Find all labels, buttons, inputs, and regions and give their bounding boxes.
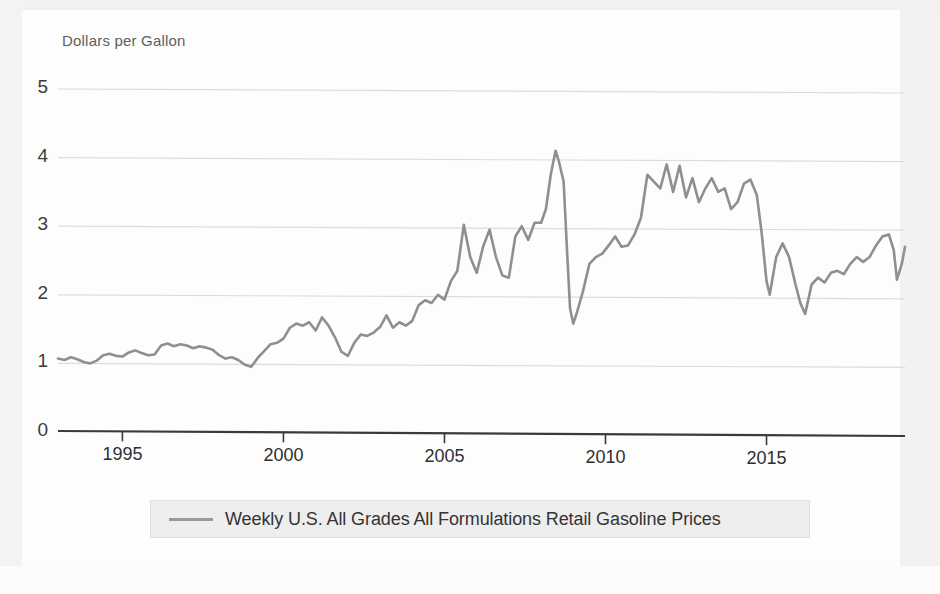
x-axis-tick-label: 1995 xyxy=(92,444,152,465)
data-series-line xyxy=(58,151,905,367)
x-axis-tick-label: 2005 xyxy=(414,446,474,467)
legend-line-swatch xyxy=(169,518,213,521)
gridline xyxy=(58,89,905,93)
chart-page: Dollars per Gallon 012345 19952000200520… xyxy=(0,0,940,594)
gridline xyxy=(58,158,905,162)
x-axis-line xyxy=(58,431,905,436)
x-axis-tick-label: 2010 xyxy=(575,447,635,468)
y-axis-tick-label: 2 xyxy=(22,282,48,304)
legend-label: Weekly U.S. All Grades All Formulations … xyxy=(225,509,721,530)
x-axis-tick-label: 2015 xyxy=(737,448,797,469)
gridline xyxy=(58,363,905,367)
gridline xyxy=(58,295,905,299)
y-axis-tick-label: 1 xyxy=(22,350,48,372)
y-axis-tick-label: 4 xyxy=(22,145,48,167)
chart-legend: Weekly U.S. All Grades All Formulations … xyxy=(150,500,810,538)
y-axis-tick-label: 3 xyxy=(22,213,48,235)
y-axis-tick-label: 0 xyxy=(22,419,48,441)
x-axis-tick-label: 2000 xyxy=(253,445,313,466)
y-axis-tick-label: 5 xyxy=(22,76,48,98)
gridlines xyxy=(58,89,905,367)
gridline xyxy=(58,226,905,230)
